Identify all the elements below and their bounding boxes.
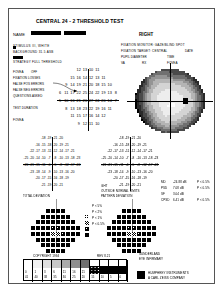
grid-value: 7	[113, 100, 119, 104]
report-title: CENTRAL 24 - 2 THRESHOLD TEST	[36, 19, 124, 24]
patient-name-redaction-2	[64, 31, 86, 35]
pattern-deviation-symbol-plot	[107, 199, 157, 245]
grid-value: 12	[100, 115, 106, 119]
grid-value: -21	[147, 150, 153, 153]
cpsd-value: 6.41 dB	[173, 199, 184, 202]
grid-value: -21	[136, 184, 142, 187]
scale-cell: 635	[52, 260, 61, 282]
fixation-monitor-line: FIXATION MONITOR: GAZE/BLIND SPOT	[121, 44, 185, 47]
probability-symbol	[122, 239, 126, 257]
date-label: DATE	[185, 50, 193, 53]
grid-value: -23	[153, 157, 159, 160]
grid-value: -23	[75, 157, 81, 160]
scale-cell: 365	[109, 260, 118, 282]
false-neg-label: FALSE NEG ERRORS	[13, 89, 44, 92]
scale-cell: 041	[24, 260, 33, 282]
cpsd-p: P < 0.5%	[197, 199, 210, 202]
scale-swatch	[119, 260, 127, 268]
scale-db-value: 21	[82, 271, 85, 274]
grid-value: 11	[94, 69, 100, 73]
scale-cell: 338	[43, 260, 52, 282]
total-deviation-symbol-plot	[31, 199, 81, 245]
grid-value: 10	[94, 123, 100, 127]
scale-asb-value: 41	[25, 276, 28, 279]
report-page: CENTRAL 24 - 2 THRESHOLD TEST NAME RIGHT…	[0, 0, 223, 291]
sf-value: 3.04 dB	[173, 193, 184, 196]
probability-symbol	[147, 228, 151, 246]
fixation-target-line: FIXATION TARGET: CENTRAL	[121, 50, 167, 53]
scale-swatch	[43, 260, 51, 268]
pupil-line: PUPIL DIAMETER	[121, 56, 147, 59]
legend-swatch	[85, 223, 89, 241]
fovea-result: OFF	[31, 71, 37, 74]
pattern-deviation-numeric-plot: -18-19-21-20-16-15-18-20-19-21-22-17-13-…	[101, 137, 159, 191]
scale-cell: 1625	[71, 260, 80, 282]
scale-swatch	[81, 260, 89, 268]
probability-symbol	[76, 222, 80, 240]
pattern-deviation-label: PATTERN DEVIATION	[101, 195, 132, 198]
fovea-extra-label: FOVEA	[13, 119, 23, 122]
probability-symbol	[41, 233, 45, 251]
test-duration-label: TEST DURATION	[13, 107, 38, 110]
clinic-dept: EYE INFIRMARY	[139, 258, 163, 261]
psd-p: P < 0.5%	[197, 187, 210, 190]
probability-symbol	[127, 239, 131, 257]
md-label: MD	[161, 181, 166, 184]
probability-symbol	[66, 233, 70, 251]
scale-db-value: 0	[25, 271, 27, 274]
humphrey-logo-icon	[137, 271, 145, 279]
scale-asb-value: 5	[110, 276, 112, 279]
scale-db-value: 31	[101, 271, 104, 274]
scale-asb-value: 0	[120, 276, 122, 279]
background-line: BACKGROUND 31.5 ASB	[13, 51, 54, 54]
stimulus-size-label: FOVEA	[167, 62, 177, 65]
scale-swatch	[90, 260, 98, 268]
eye-label: RIGHT	[139, 33, 153, 38]
scale-db-value: 1	[34, 271, 36, 274]
scale-db-value: 6	[53, 271, 55, 274]
fovea-label: FOVEA	[13, 71, 23, 74]
grayscale-calibration-bar: 04114033863511301625212026153110365410	[23, 259, 127, 281]
scale-cell: 140	[33, 260, 42, 282]
scale-swatch	[100, 260, 108, 268]
scale-cell: 410	[119, 260, 128, 282]
scale-asb-value: 10	[101, 276, 104, 279]
scale-cell: 2120	[81, 260, 90, 282]
strategy-line: STRATEGY FULL THRESHOLD	[13, 61, 62, 64]
grid-value: -21	[142, 144, 148, 147]
patient-name-redaction	[31, 31, 61, 35]
scale-db-value: 11	[63, 271, 66, 274]
scale-swatch	[109, 260, 117, 268]
rx-label: RX	[142, 62, 146, 65]
grid-value: -20	[136, 137, 142, 140]
scale-asb-value: 15	[91, 276, 94, 279]
scale-swatch	[71, 260, 79, 268]
scale-cell: 3110	[100, 260, 109, 282]
questions-asked-label: QUESTIONS ASKED	[13, 95, 42, 98]
legend-label: P < 5%	[92, 205, 102, 208]
scale-swatch	[52, 260, 60, 268]
scale-asb-value: 20	[82, 276, 85, 279]
probability-symbol	[152, 222, 156, 240]
clinic-name: SUNDERLAND	[139, 253, 160, 256]
scale-asb-value: 25	[72, 276, 75, 279]
va-label: VA	[121, 62, 125, 65]
scale-db-value: 36	[110, 271, 113, 274]
probability-symbol	[31, 222, 35, 240]
scale-swatch	[62, 260, 70, 268]
scale-swatch	[24, 260, 32, 268]
grayscale-map	[133, 67, 207, 135]
grid-value: -20	[147, 171, 153, 174]
sf-label: SF	[161, 193, 165, 196]
fixation-losses-label: FIXATION LOSSES	[13, 77, 40, 80]
cpsd-label: CPSD	[161, 199, 170, 202]
scale-asb-value: 38	[44, 276, 47, 279]
time-label: TIME	[167, 56, 174, 59]
scale-db-value: 16	[72, 271, 75, 274]
probability-symbol	[107, 222, 111, 240]
psd-value: 7.08 dB	[173, 187, 184, 190]
report-sheet: CENTRAL 24 - 2 THRESHOLD TEST NAME RIGHT…	[8, 8, 215, 284]
scale-swatch	[33, 260, 41, 268]
grid-value: -21	[64, 144, 70, 147]
probability-symbol	[61, 239, 65, 257]
